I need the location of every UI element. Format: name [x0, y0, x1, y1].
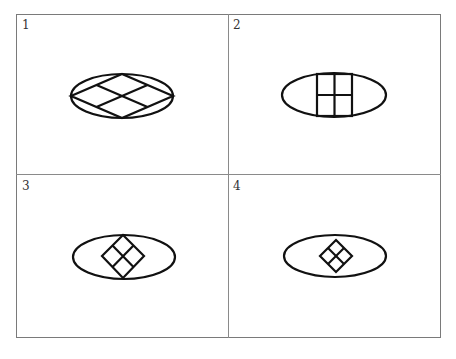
panel-1-figure [71, 74, 173, 118]
panel-2-figure [282, 73, 386, 117]
figures-canvas [0, 0, 456, 359]
panel-3-figure [73, 235, 175, 279]
panel-4-figure [284, 235, 386, 277]
